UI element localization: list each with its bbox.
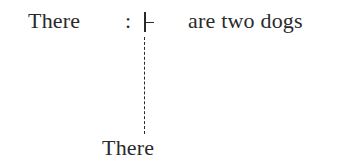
predicate-phrase: are two dogs xyxy=(188,10,303,32)
turnstile-icon xyxy=(144,12,156,32)
bottom-word: There xyxy=(102,137,154,159)
colon-separator: : xyxy=(125,10,131,32)
top-subject-word: There xyxy=(28,10,80,32)
turnstile-horizontal-bar xyxy=(144,22,154,23)
dashed-connector-line xyxy=(144,37,145,134)
derivation-diagram: There : are two dogs There xyxy=(0,0,361,167)
